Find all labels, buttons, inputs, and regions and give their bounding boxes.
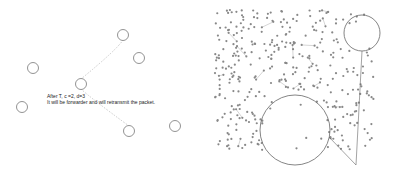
network-node xyxy=(248,91,250,93)
network-node xyxy=(228,32,230,34)
network-node xyxy=(241,117,243,119)
network-node xyxy=(218,94,220,96)
network-node xyxy=(297,89,299,91)
network-node xyxy=(300,86,302,88)
network-node xyxy=(256,17,258,19)
highlight-circle xyxy=(260,95,330,165)
network-node xyxy=(250,88,252,90)
network-node xyxy=(327,84,329,86)
network-node xyxy=(270,11,272,13)
network-node xyxy=(342,139,344,141)
network-node xyxy=(222,74,224,76)
network-node xyxy=(298,53,300,55)
network-node xyxy=(366,92,368,94)
network-node xyxy=(230,138,232,140)
network-node xyxy=(250,141,252,143)
network-node xyxy=(269,67,271,69)
network-node xyxy=(334,118,336,120)
network-node xyxy=(272,21,274,23)
network-node xyxy=(271,39,273,41)
network-node xyxy=(225,68,227,70)
network-node xyxy=(315,64,317,66)
network-node xyxy=(355,102,357,104)
network-node xyxy=(219,27,221,29)
network-node xyxy=(357,88,359,90)
network-node xyxy=(269,44,271,46)
network-node xyxy=(363,109,365,111)
network-node xyxy=(216,120,218,122)
network-node xyxy=(231,11,233,13)
network-node xyxy=(330,54,332,56)
network-node xyxy=(219,140,221,142)
network-node xyxy=(215,59,217,61)
network-node xyxy=(316,46,318,48)
network-node xyxy=(244,144,246,146)
network-node xyxy=(346,113,348,115)
network-node xyxy=(255,78,257,80)
network-node xyxy=(321,38,323,40)
network-node xyxy=(237,78,239,80)
network-node xyxy=(352,71,354,73)
network-node xyxy=(236,114,238,116)
network-node xyxy=(355,104,357,106)
network-node xyxy=(352,89,354,91)
node-circle xyxy=(124,126,135,137)
network-node xyxy=(335,106,337,108)
network-node xyxy=(230,21,232,23)
network-node xyxy=(270,57,272,59)
network-node xyxy=(271,41,273,43)
network-edge xyxy=(262,22,273,27)
network-node xyxy=(308,66,310,68)
network-node xyxy=(224,97,226,99)
node-circle xyxy=(134,53,145,64)
network-node xyxy=(305,35,307,37)
network-node xyxy=(237,145,239,147)
network-node xyxy=(251,111,253,113)
network-node xyxy=(330,128,332,130)
network-node xyxy=(342,18,344,20)
network-node xyxy=(233,108,235,110)
network-node xyxy=(310,65,312,67)
network-node xyxy=(307,57,309,59)
annotation-text: After T, c =2, d=3 It will be forwarder … xyxy=(47,93,155,105)
network-node xyxy=(333,131,335,133)
network-node xyxy=(227,144,229,146)
network-node xyxy=(273,51,275,53)
network-node xyxy=(326,101,328,103)
network-node xyxy=(217,34,219,36)
network-node xyxy=(261,31,263,33)
network-node xyxy=(281,40,283,42)
network-node xyxy=(229,78,231,80)
network-node xyxy=(296,14,298,16)
right-panel-network xyxy=(214,9,380,165)
network-node xyxy=(215,22,217,24)
network-node xyxy=(246,96,248,98)
network-node xyxy=(225,26,227,28)
network-node xyxy=(218,54,220,56)
network-node xyxy=(228,148,230,150)
network-node xyxy=(295,67,297,69)
network-node xyxy=(319,10,321,12)
network-node xyxy=(285,34,287,36)
network-node xyxy=(231,105,233,107)
network-node xyxy=(259,57,261,59)
network-node xyxy=(316,87,318,89)
network-node xyxy=(353,124,355,126)
network-node xyxy=(341,106,343,108)
network-node xyxy=(257,143,259,145)
network-node xyxy=(335,100,337,102)
network-node xyxy=(224,113,226,115)
network-node xyxy=(339,106,341,108)
network-node xyxy=(337,41,339,43)
network-node xyxy=(281,11,283,13)
network-node xyxy=(230,72,232,74)
network-node xyxy=(276,44,278,46)
network-node xyxy=(317,69,319,71)
network-node xyxy=(319,41,321,43)
network-node xyxy=(245,55,247,57)
network-node xyxy=(341,134,343,136)
network-node xyxy=(278,79,280,81)
network-node xyxy=(241,30,243,32)
network-node xyxy=(235,11,237,13)
network-node xyxy=(227,12,229,14)
